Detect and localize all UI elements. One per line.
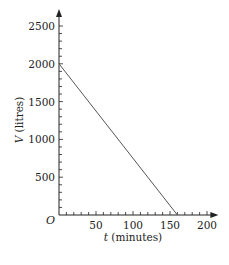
x-tick-label: 150 [160, 219, 180, 231]
y-tick-label: 500 [35, 171, 55, 183]
x-tick-label: 50 [89, 219, 102, 231]
y-tick-label: 2500 [28, 20, 55, 32]
chart: 501001502005001000150020002500 O t (minu… [0, 0, 229, 265]
y-axis-label: V (litres) [13, 97, 25, 144]
y-tick-label: 1000 [28, 133, 55, 145]
y-tick-label: 1500 [28, 96, 55, 108]
data-line [59, 64, 177, 215]
x-tick-label: 200 [197, 219, 217, 231]
x-axis-arrow-icon [210, 212, 218, 218]
ticks [59, 26, 207, 215]
y-tick-label: 2000 [28, 58, 55, 70]
origin-label: O [46, 214, 55, 227]
axes [56, 9, 218, 218]
series-line [59, 64, 177, 215]
y-axis-arrow-icon [56, 9, 62, 17]
x-axis-label: t (minutes) [104, 231, 162, 243]
x-tick-label: 100 [123, 219, 143, 231]
tick-labels: 501001502005001000150020002500 [28, 20, 217, 231]
